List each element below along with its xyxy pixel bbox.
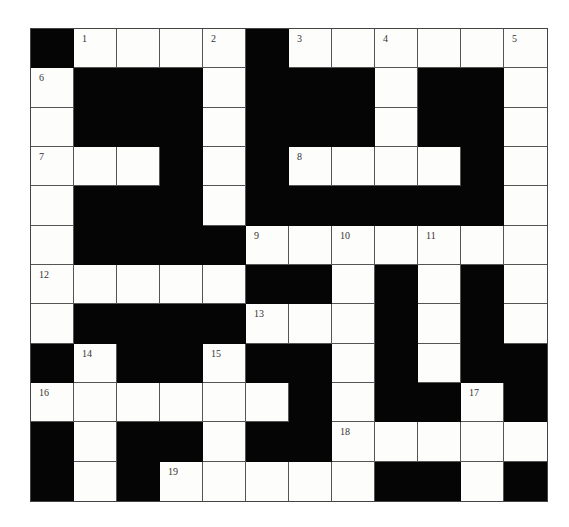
- letter-input[interactable]: [203, 29, 245, 67]
- crossword-cell[interactable]: [418, 29, 461, 68]
- letter-input[interactable]: [203, 265, 245, 303]
- crossword-cell[interactable]: [461, 462, 504, 501]
- letter-input[interactable]: [461, 226, 503, 264]
- letter-input[interactable]: [31, 186, 73, 224]
- crossword-cell[interactable]: [375, 147, 418, 186]
- letter-input[interactable]: [504, 422, 547, 460]
- letter-input[interactable]: [246, 462, 288, 501]
- crossword-cell[interactable]: 18: [332, 422, 375, 461]
- letter-input[interactable]: [375, 29, 417, 67]
- letter-input[interactable]: [418, 265, 460, 303]
- crossword-cell[interactable]: 14: [74, 344, 117, 383]
- crossword-cell[interactable]: [203, 383, 246, 422]
- crossword-cell[interactable]: [203, 108, 246, 147]
- letter-input[interactable]: [31, 147, 73, 185]
- letter-input[interactable]: [246, 383, 288, 421]
- letter-input[interactable]: [289, 462, 331, 501]
- letter-input[interactable]: [203, 462, 245, 501]
- crossword-cell[interactable]: [160, 383, 203, 422]
- crossword-cell[interactable]: 1: [74, 29, 117, 68]
- letter-input[interactable]: [289, 304, 331, 342]
- letter-input[interactable]: [332, 383, 374, 421]
- crossword-cell[interactable]: [375, 68, 418, 107]
- crossword-cell[interactable]: [504, 108, 547, 147]
- crossword-cell[interactable]: [332, 29, 375, 68]
- letter-input[interactable]: [117, 29, 159, 67]
- letter-input[interactable]: [31, 304, 73, 342]
- letter-input[interactable]: [418, 226, 460, 264]
- letter-input[interactable]: [289, 226, 331, 264]
- letter-input[interactable]: [461, 29, 503, 67]
- crossword-cell[interactable]: [31, 186, 74, 225]
- letter-input[interactable]: [375, 68, 417, 106]
- crossword-cell[interactable]: [461, 226, 504, 265]
- letter-input[interactable]: [332, 422, 374, 460]
- letter-input[interactable]: [332, 462, 374, 501]
- letter-input[interactable]: [203, 147, 245, 185]
- crossword-cell[interactable]: [332, 344, 375, 383]
- crossword-cell[interactable]: [117, 29, 160, 68]
- letter-input[interactable]: [31, 383, 73, 421]
- crossword-cell[interactable]: [31, 304, 74, 343]
- crossword-cell[interactable]: [203, 147, 246, 186]
- crossword-cell[interactable]: [289, 226, 332, 265]
- crossword-cell[interactable]: [31, 226, 74, 265]
- crossword-cell[interactable]: 11: [418, 226, 461, 265]
- letter-input[interactable]: [203, 422, 245, 460]
- letter-input[interactable]: [160, 29, 202, 67]
- crossword-cell[interactable]: [461, 422, 504, 461]
- letter-input[interactable]: [31, 265, 73, 303]
- crossword-cell[interactable]: [31, 108, 74, 147]
- crossword-cell[interactable]: 15: [203, 344, 246, 383]
- letter-input[interactable]: [504, 29, 547, 67]
- letter-input[interactable]: [375, 226, 417, 264]
- letter-input[interactable]: [203, 344, 245, 382]
- crossword-cell[interactable]: [160, 265, 203, 304]
- letter-input[interactable]: [74, 29, 116, 67]
- crossword-cell[interactable]: [504, 147, 547, 186]
- crossword-cell[interactable]: 12: [31, 265, 74, 304]
- crossword-cell[interactable]: 7: [31, 147, 74, 186]
- crossword-cell[interactable]: [332, 383, 375, 422]
- crossword-cell[interactable]: [375, 226, 418, 265]
- crossword-cell[interactable]: [117, 265, 160, 304]
- letter-input[interactable]: [418, 147, 460, 185]
- crossword-cell[interactable]: [504, 265, 547, 304]
- crossword-cell[interactable]: [504, 304, 547, 343]
- letter-input[interactable]: [31, 226, 73, 264]
- letter-input[interactable]: [160, 462, 202, 501]
- letter-input[interactable]: [375, 147, 417, 185]
- letter-input[interactable]: [504, 304, 547, 342]
- letter-input[interactable]: [418, 29, 460, 67]
- crossword-cell[interactable]: 3: [289, 29, 332, 68]
- letter-input[interactable]: [74, 383, 116, 421]
- crossword-cell[interactable]: [160, 29, 203, 68]
- crossword-cell[interactable]: [74, 383, 117, 422]
- crossword-cell[interactable]: [203, 422, 246, 461]
- crossword-cell[interactable]: 19: [160, 462, 203, 501]
- crossword-cell[interactable]: [418, 147, 461, 186]
- letter-input[interactable]: [375, 108, 417, 146]
- crossword-cell[interactable]: [332, 265, 375, 304]
- letter-input[interactable]: [31, 108, 73, 146]
- letter-input[interactable]: [504, 147, 547, 185]
- crossword-cell[interactable]: 4: [375, 29, 418, 68]
- letter-input[interactable]: [418, 304, 460, 342]
- crossword-cell[interactable]: [375, 422, 418, 461]
- letter-input[interactable]: [418, 344, 460, 382]
- letter-input[interactable]: [418, 422, 460, 460]
- letter-input[interactable]: [31, 68, 73, 106]
- crossword-cell[interactable]: [203, 265, 246, 304]
- letter-input[interactable]: [461, 383, 503, 421]
- crossword-cell[interactable]: [332, 304, 375, 343]
- letter-input[interactable]: [203, 383, 245, 421]
- letter-input[interactable]: [203, 186, 245, 224]
- crossword-cell[interactable]: [74, 462, 117, 501]
- crossword-cell[interactable]: [461, 29, 504, 68]
- crossword-cell[interactable]: [203, 462, 246, 501]
- crossword-cell[interactable]: [289, 462, 332, 501]
- letter-input[interactable]: [117, 383, 159, 421]
- letter-input[interactable]: [461, 422, 503, 460]
- crossword-cell[interactable]: [246, 383, 289, 422]
- letter-input[interactable]: [461, 462, 503, 501]
